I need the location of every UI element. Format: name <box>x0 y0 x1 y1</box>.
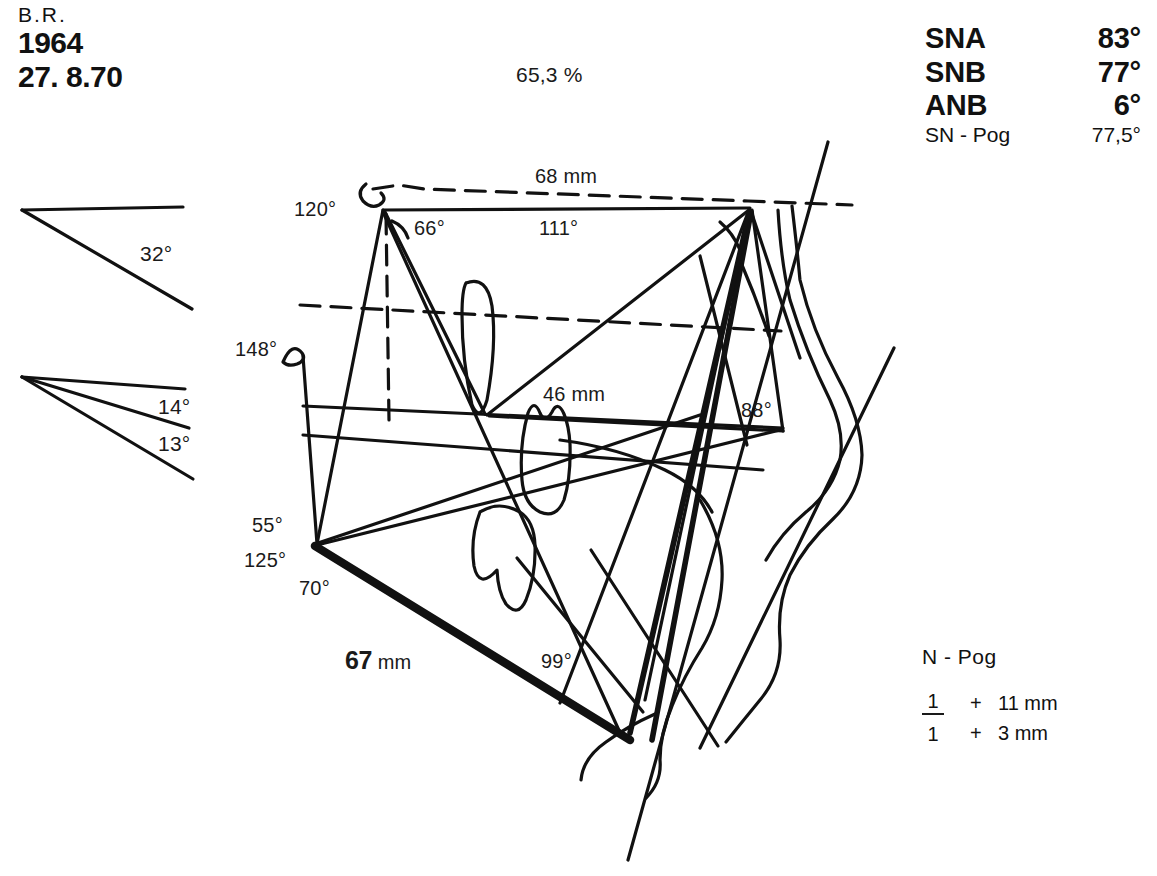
lower-molar-outline <box>473 506 535 610</box>
tracing-label-70: 70° <box>299 577 330 600</box>
npog-upper-tooth: 1 <box>922 691 944 715</box>
measurement-label-sna: SNA <box>925 22 986 56</box>
npog-block: N - Pog 1 + 11 mm 1 + 3 mm <box>922 645 1058 744</box>
tracing-label-46mm: 46 mm <box>543 383 605 406</box>
tracing-label-88: 88° <box>741 399 772 422</box>
measurement-row-sna: SNA 83° <box>925 22 1141 56</box>
measurement-value-sna: 83° <box>1098 22 1141 56</box>
reference-line-top-dashed <box>373 185 852 205</box>
npog-lower-tooth: 1 <box>922 721 944 744</box>
angle-sample-label-13: 13° <box>158 432 190 456</box>
measurement-label-sn-pog: SN - Pog <box>925 123 1010 147</box>
facial-plane-line <box>317 210 383 544</box>
tracing-label-67mm: 67 mm <box>345 646 411 675</box>
sella-nasion-line <box>383 208 750 210</box>
measurement-table: SNA 83° SNB 77° ANB 6° SN - Pog 77,5° <box>925 22 1141 147</box>
incisor-axis-inner <box>645 216 748 700</box>
tracing-label-111: 111° <box>539 217 578 240</box>
npog-title: N - Pog <box>922 645 1058 669</box>
measurement-value-anb: 6° <box>1114 89 1141 123</box>
npog-lower-sign: + <box>970 723 990 743</box>
tracing-label-148: 148° <box>235 338 277 361</box>
long-diagonal-line-lower <box>700 348 894 748</box>
gonion-occlusal-line <box>318 415 700 543</box>
percent-label: 65,3 % <box>516 63 583 87</box>
cephalometric-tracing-page: B.R. 1964 27. 8.70 65,3 % SNA 83° SNB 77… <box>0 0 1157 876</box>
gonion-anterior-line <box>317 430 780 545</box>
tracing-label-67mm-value: 67 <box>345 646 372 674</box>
measurement-value-sn-pog: 77,5° <box>1092 123 1141 147</box>
npog-lower-amount: 3 mm <box>998 723 1048 743</box>
tracing-label-125: 125° <box>244 549 286 572</box>
patient-birth-year: 1964 <box>18 26 122 60</box>
tracing-label-67mm-unit: mm <box>378 651 411 673</box>
long-diagonal-line-upper <box>628 142 828 860</box>
nasion-vertical-dashed <box>386 214 389 420</box>
measurement-row-sn-pog: SN - Pog 77,5° <box>925 123 1141 147</box>
measurement-value-snb: 77° <box>1098 56 1141 90</box>
angle-sample-label-32: 32° <box>140 242 172 266</box>
npog-lower-row: 1 + 3 mm <box>922 721 1058 744</box>
tracing-label-66: 66° <box>414 217 445 240</box>
angle-sample-label-14: 14° <box>158 395 190 419</box>
condyle-outline <box>283 349 304 365</box>
patient-record-date: 27. 8.70 <box>18 60 122 94</box>
soft-tissue-profile-curve <box>726 206 862 742</box>
tracing-label-55: 55° <box>252 514 283 537</box>
ramus-posterior-border <box>303 356 317 544</box>
tracing-label-68mm: 68 mm <box>535 165 597 188</box>
patient-initials: B.R. <box>18 4 122 26</box>
patient-header: B.R. 1964 27. 8.70 <box>18 4 122 93</box>
tracing-label-99: 99° <box>541 650 572 673</box>
npog-upper-sign: + <box>970 693 990 713</box>
npog-upper-row: 1 + 11 mm <box>922 691 1058 715</box>
measurement-row-snb: SNB 77° <box>925 56 1141 90</box>
measurement-label-snb: SNB <box>925 56 986 90</box>
measurement-label-anb: ANB <box>925 89 987 123</box>
npog-upper-amount: 11 mm <box>998 693 1058 713</box>
tracing-label-120: 120° <box>294 198 336 221</box>
angle-sample-14-13-lines <box>22 377 193 479</box>
anterior-diagonal-line-2 <box>517 558 643 712</box>
submental-curve <box>581 714 655 780</box>
measurement-row-anb: ANB 6° <box>925 89 1141 123</box>
